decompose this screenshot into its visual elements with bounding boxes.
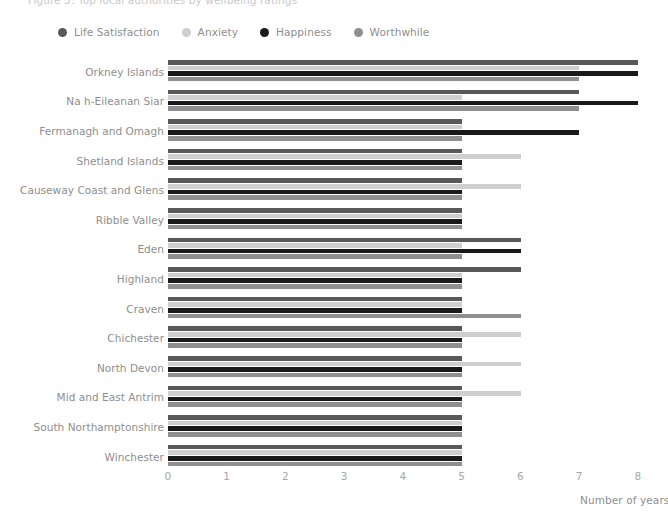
bar-life-satisfaction[interactable] [168, 208, 462, 213]
bar-life-satisfaction[interactable] [168, 90, 579, 95]
bar-happiness[interactable] [168, 219, 462, 224]
bar-worthwhile[interactable] [168, 136, 462, 141]
y-axis-category-label: Na h-Eileanan Siar [66, 95, 164, 107]
bar-life-satisfaction[interactable] [168, 386, 462, 391]
bar-anxiety[interactable] [168, 332, 521, 337]
bar-worthwhile[interactable] [168, 166, 462, 171]
bar-group [168, 118, 638, 144]
x-axis-tick-label: 3 [341, 470, 348, 482]
legend-item-label: Worthwhile [370, 26, 430, 38]
bar-anxiety[interactable] [168, 95, 462, 100]
bar-life-satisfaction[interactable] [168, 238, 521, 243]
x-axis-tick-label: 6 [517, 470, 524, 482]
chart-title-cutoff: Figure 3: Top local authorities by wellb… [28, 0, 297, 6]
bar-anxiety[interactable] [168, 184, 521, 189]
legend-item-label: Anxiety [198, 26, 238, 38]
chart-row: Chichester [0, 323, 668, 353]
bar-worthwhile[interactable] [168, 106, 579, 111]
bar-happiness[interactable] [168, 190, 462, 195]
bar-group [168, 444, 638, 470]
bar-worthwhile[interactable] [168, 254, 462, 259]
x-axis-tick-label: 5 [458, 470, 465, 482]
bar-life-satisfaction[interactable] [168, 119, 462, 124]
x-axis-tick-label: 8 [635, 470, 642, 482]
chart-row: Causeway Coast and Glens [0, 175, 668, 205]
bar-life-satisfaction[interactable] [168, 415, 462, 420]
bar-anxiety[interactable] [168, 214, 462, 219]
chart-row: Mid and East Antrim [0, 383, 668, 413]
bar-anxiety[interactable] [168, 391, 521, 396]
bar-group [168, 177, 638, 203]
bar-group [168, 355, 638, 381]
bar-happiness[interactable] [168, 426, 462, 431]
bar-group [168, 325, 638, 351]
bar-group [168, 385, 638, 411]
bar-life-satisfaction[interactable] [168, 178, 462, 183]
bar-life-satisfaction[interactable] [168, 297, 462, 302]
legend-item-happiness[interactable]: Happiness [260, 26, 332, 38]
x-axis-tick-label: 1 [223, 470, 230, 482]
bar-anxiety[interactable] [168, 302, 462, 307]
bar-happiness[interactable] [168, 249, 521, 254]
chart-row: Winchester [0, 442, 668, 472]
chart-row: Shetland Islands [0, 146, 668, 176]
bar-anxiety[interactable] [168, 273, 462, 278]
bar-group [168, 207, 638, 233]
bar-happiness[interactable] [168, 71, 638, 76]
bar-worthwhile[interactable] [168, 195, 462, 200]
bar-happiness[interactable] [168, 130, 579, 135]
chart-row: Ribble Valley [0, 205, 668, 235]
bar-life-satisfaction[interactable] [168, 60, 638, 65]
bar-life-satisfaction[interactable] [168, 356, 462, 361]
bar-happiness[interactable] [168, 367, 462, 372]
chart-row: South Northamptonshire [0, 412, 668, 442]
x-axis-tick-label: 0 [165, 470, 172, 482]
bar-group [168, 296, 638, 322]
bar-worthwhile[interactable] [168, 462, 462, 467]
bar-happiness[interactable] [168, 397, 462, 402]
legend-item-anxiety[interactable]: Anxiety [182, 26, 238, 38]
bar-anxiety[interactable] [168, 421, 462, 426]
legend-item-life-satisfaction[interactable]: Life Satisfaction [58, 26, 160, 38]
bar-anxiety[interactable] [168, 125, 462, 130]
x-axis-title: Number of years [580, 494, 668, 506]
bar-anxiety[interactable] [168, 66, 579, 71]
bar-happiness[interactable] [168, 278, 462, 283]
bar-worthwhile[interactable] [168, 432, 462, 437]
y-axis-category-label: Highland [117, 273, 164, 285]
chart-canvas: Figure 3: Top local authorities by wellb… [0, 0, 668, 529]
legend-item-worthwhile[interactable]: Worthwhile [354, 26, 430, 38]
bar-group [168, 59, 638, 85]
bar-group [168, 148, 638, 174]
bar-happiness[interactable] [168, 308, 462, 313]
bar-happiness[interactable] [168, 160, 462, 165]
legend-swatch-icon [58, 28, 67, 37]
bar-worthwhile[interactable] [168, 284, 462, 289]
bar-life-satisfaction[interactable] [168, 149, 462, 154]
bar-happiness[interactable] [168, 456, 462, 461]
y-axis-category-label: Mid and East Antrim [57, 391, 164, 403]
bar-group [168, 237, 638, 263]
y-axis-category-label: Causeway Coast and Glens [20, 184, 164, 196]
bar-happiness[interactable] [168, 338, 462, 343]
bar-anxiety[interactable] [168, 243, 462, 248]
chart-row: Fermanagh and Omagh [0, 116, 668, 146]
bar-life-satisfaction[interactable] [168, 326, 462, 331]
bar-group [168, 89, 638, 115]
bar-worthwhile[interactable] [168, 343, 462, 348]
bar-life-satisfaction[interactable] [168, 445, 462, 450]
bar-worthwhile[interactable] [168, 373, 462, 378]
bar-anxiety[interactable] [168, 450, 462, 455]
bar-worthwhile[interactable] [168, 225, 462, 230]
bar-worthwhile[interactable] [168, 402, 462, 407]
legend-item-label: Life Satisfaction [74, 26, 160, 38]
y-axis-category-label: Winchester [105, 451, 164, 463]
bar-worthwhile[interactable] [168, 314, 521, 319]
bar-anxiety[interactable] [168, 154, 521, 159]
bar-happiness[interactable] [168, 101, 638, 106]
bar-worthwhile[interactable] [168, 77, 579, 82]
bar-anxiety[interactable] [168, 362, 521, 367]
chart-row: Eden [0, 235, 668, 265]
y-axis-category-label: Craven [126, 303, 164, 315]
bar-life-satisfaction[interactable] [168, 267, 521, 272]
